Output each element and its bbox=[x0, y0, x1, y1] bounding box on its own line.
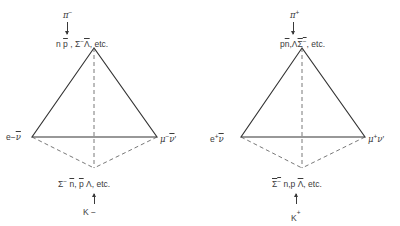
left-top-particle: π− bbox=[63, 8, 72, 20]
left-triangle-solid bbox=[32, 48, 157, 137]
left-bottom-products: Σ− n, p Λ, etc. bbox=[58, 177, 110, 189]
left-bottom-arrow-up-icon bbox=[94, 194, 95, 204]
right-top-arrow-down-icon bbox=[293, 22, 294, 34]
right-bottom-arrow-up-icon bbox=[296, 194, 297, 204]
right-top-products: pn,ΛΣ−, etc. bbox=[280, 37, 325, 49]
left-vertex-electron: e−ν bbox=[6, 132, 21, 142]
left-vertex-muon: μ−ν′ bbox=[160, 132, 176, 144]
right-lower-left-dashed bbox=[241, 137, 302, 168]
right-bottom-particle: K+ bbox=[291, 208, 300, 223]
right-vertex-muon: μ+ν′ bbox=[368, 132, 384, 144]
diagram-canvas bbox=[0, 0, 400, 226]
left-top-products: n p , Σ−Λ, etc. bbox=[56, 37, 108, 49]
left-tetrahedron bbox=[32, 48, 157, 168]
right-tetrahedron bbox=[241, 48, 365, 168]
left-lower-left-dashed bbox=[32, 137, 94, 168]
charge-plus: + bbox=[296, 9, 300, 16]
left-top-arrow-down-icon bbox=[67, 22, 68, 34]
right-triangle-solid bbox=[241, 48, 365, 137]
left-bottom-particle: K − bbox=[83, 207, 96, 217]
right-lower-right-dashed bbox=[302, 137, 365, 168]
right-vertex-electron: e+ν bbox=[210, 132, 224, 144]
right-bottom-products: Σ− n,p Λ, etc. bbox=[272, 177, 322, 189]
left-lower-right-dashed bbox=[94, 137, 157, 168]
charge-minus: − bbox=[69, 9, 73, 16]
right-top-particle: π+ bbox=[290, 8, 299, 20]
